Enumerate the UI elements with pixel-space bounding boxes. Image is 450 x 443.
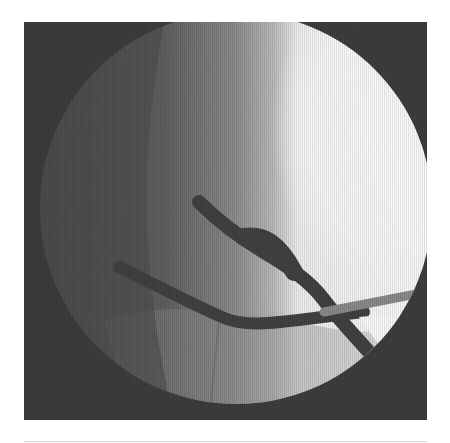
bottom-rule [24,441,427,442]
xray-figure: Grayscale fluoroscopic image with circul… [24,22,427,420]
xray-image [24,22,427,420]
